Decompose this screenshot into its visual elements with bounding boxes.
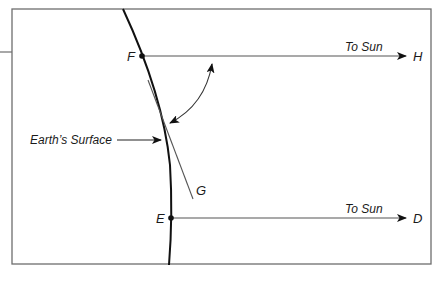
label-F: F xyxy=(127,49,136,64)
point-F-dot xyxy=(139,53,145,59)
label-to-sun-bottom: To Sun xyxy=(345,202,383,216)
label-to-sun-top: To Sun xyxy=(345,40,383,54)
label-H: H xyxy=(413,49,423,64)
label-earth-surface: Earth’s Surface xyxy=(30,133,112,147)
earth-surface-curve xyxy=(123,9,171,265)
label-D: D xyxy=(413,211,422,226)
label-G: G xyxy=(196,183,206,198)
label-E: E xyxy=(156,211,165,226)
angle-arc-arrow xyxy=(170,64,212,123)
point-E-dot xyxy=(168,215,174,221)
sun-angle-diagram: F H E D G To Sun To Sun Earth’s Surface xyxy=(0,0,444,286)
